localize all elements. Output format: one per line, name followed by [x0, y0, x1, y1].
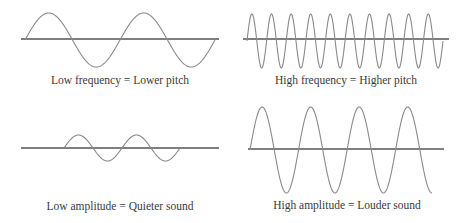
caption-low-amplitude: Low amplitude = Quieter sound — [46, 200, 193, 212]
caption-high-frequency: High frequency = Higher pitch — [275, 74, 417, 86]
sine-wave — [25, 13, 215, 67]
panel-low-amplitude — [21, 135, 219, 161]
caption-high-amplitude: High amplitude = Louder sound — [273, 199, 421, 211]
sound-wave-diagram — [0, 0, 461, 223]
sine-wave — [247, 14, 443, 68]
panel-high-frequency — [243, 14, 449, 68]
sine-wave — [250, 107, 432, 193]
panel-low-frequency — [21, 13, 219, 67]
panel-high-amplitude — [248, 107, 444, 193]
caption-low-frequency: Low frequency = Lower pitch — [51, 74, 189, 86]
